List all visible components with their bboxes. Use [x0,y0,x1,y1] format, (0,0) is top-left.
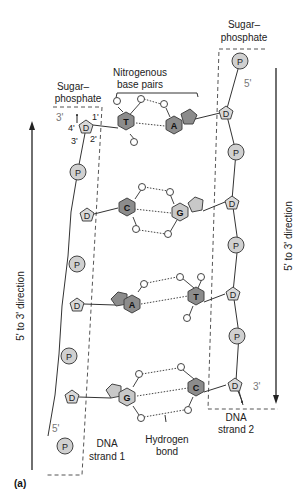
base-letter: A [171,121,178,131]
deoxyribose-icon: D [65,390,79,403]
base-letter: C [193,383,200,393]
hydrogen-bond-label-1: Hydrogen [145,434,188,445]
base-letter: T [123,117,129,127]
deoxyribose-icon: D [226,287,240,300]
right-backbone-box [208,49,278,409]
svg-text:D: D [83,123,90,133]
carbon-3prime: 3' [71,136,78,146]
base-pair-c-g: C G [119,184,203,238]
base-letter: T [193,292,199,302]
sugar-phosphate-label-right-1: Sugar– [228,19,261,30]
left-5prime: 5' [52,423,60,434]
right-3prime: 3' [253,381,261,392]
nitrogenous-label-2: base pairs [117,79,163,90]
phosphate-icon: P [228,144,244,160]
hydrogen-bond-label-2: bond [156,446,178,457]
svg-text:D: D [232,381,239,391]
sugar-phosphate-label-left-1: Sugar– [57,81,90,92]
carbon-1prime: 1' [92,112,99,122]
base-pair-a-t: A T [111,274,205,322]
svg-text:P: P [74,260,80,270]
svg-text:D: D [230,290,237,300]
phosphate-icon: P [57,438,73,454]
svg-text:D: D [69,393,76,403]
carbon-2prime: 2' [90,134,97,144]
svg-text:P: P [234,332,240,342]
deoxyribose-icon: D [228,378,242,391]
nitrogenous-label-1: Nitrogenous [113,67,167,78]
phosphate-icon: P [232,53,248,69]
sugar-phosphate-label-left-2: phosphate [55,93,102,104]
strand1-label-1: DNA [96,438,117,449]
deoxyribose-icon: D [70,298,84,311]
deoxyribose-icon: D [79,120,93,133]
phosphate-icon: P [70,164,86,180]
carbon-4prime: 4' [68,123,75,133]
left-3prime: 3' [56,112,64,123]
phosphate-icon: P [229,328,245,344]
phosphate-icon: P [69,256,85,272]
svg-text:P: P [75,168,81,178]
right-5prime: 5' [244,78,252,89]
strand2-label-1: DNA [225,412,246,423]
svg-text:P: P [237,57,243,67]
deoxyribose-icon: D [225,196,239,209]
svg-text:P: P [62,442,68,452]
strand1-label-2: strand 1 [89,451,126,462]
deoxyribose-icon: D [219,106,233,119]
phosphate-icon: P [228,237,244,253]
svg-text:D: D [74,301,81,311]
base-letter: G [176,208,183,218]
hydrogen-bond-pointer [165,415,166,422]
svg-text:D: D [229,199,236,209]
strand2-label-2: strand 2 [218,424,255,435]
panel-label: (a) [14,478,26,489]
left-direction-label: 5' to 3' direction [15,271,26,340]
left-backbone-box [47,107,102,475]
base-pairs-bracket [116,93,198,98]
base-letter: C [124,203,131,213]
sugar-phosphate-label-right-2: phosphate [221,32,268,43]
svg-text:P: P [66,352,72,362]
svg-text:P: P [233,241,239,251]
base-pair-g-c: G C [106,364,204,422]
right-direction-arrow [273,68,279,404]
dna-double-helix-figure: 5' to 3' direction 5' to 3' direction Su… [0,0,305,502]
svg-text:P: P [233,148,239,158]
svg-text:D: D [223,109,230,119]
left-direction-arrow [29,121,35,470]
right-direction-label: 5' to 3' direction [283,201,294,270]
base-letter: G [123,393,130,403]
phosphate-icon: P [61,348,77,364]
base-letter: A [129,300,136,310]
base-pair-t-a: T A [114,96,198,146]
svg-text:D: D [84,211,91,221]
dna-diagram: 5' to 3' direction 5' to 3' direction Su… [0,0,305,502]
deoxyribose-icon: D [80,208,94,221]
